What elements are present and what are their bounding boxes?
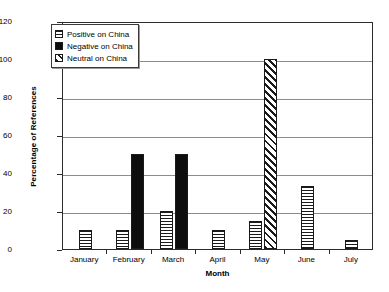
chart-legend: Positive on ChinaNegative on ChinaNeutra… [51, 24, 139, 68]
bar-group [330, 23, 374, 249]
legend-item-label: Positive on China [67, 30, 129, 39]
y-axis-tick-label: 20 [0, 208, 12, 216]
bar-group [241, 23, 285, 249]
bar [301, 186, 314, 249]
x-axis-tick-mark [284, 250, 285, 254]
x-axis-tick-mark [329, 250, 330, 254]
bar [212, 230, 225, 249]
y-axis-tick-label: 60 [0, 132, 12, 140]
legend-swatch-icon [55, 42, 63, 50]
y-axis-title: Percentage of References [29, 52, 38, 222]
y-axis-tick-label: 40 [0, 170, 12, 178]
bar-chart: Percentage of References 020406080100120… [0, 0, 389, 292]
legend-item: Positive on China [55, 28, 133, 40]
bar [131, 154, 144, 249]
legend-item: Neutral on China [55, 52, 133, 64]
bar [160, 211, 173, 249]
bar [345, 240, 358, 250]
legend-swatch-icon [55, 54, 63, 62]
bar [79, 230, 92, 249]
bar-group [285, 23, 329, 249]
x-axis-tick-mark [106, 250, 107, 254]
x-axis-tick-mark [195, 250, 196, 254]
y-axis-tick-label: 100 [0, 56, 12, 64]
legend-item: Negative on China [55, 40, 133, 52]
x-axis-tick-mark [240, 250, 241, 254]
y-axis-tick-label: 0 [0, 246, 12, 254]
legend-item-label: Neutral on China [67, 54, 127, 63]
bar [264, 59, 277, 249]
bar [116, 230, 129, 249]
y-axis-tick-label: 120 [0, 18, 12, 26]
y-axis-tick-mark [57, 250, 62, 251]
legend-swatch-icon [55, 30, 63, 38]
bar-group [152, 23, 196, 249]
x-axis-tick-label: July [316, 255, 386, 264]
bar [249, 221, 262, 250]
legend-item-label: Negative on China [67, 42, 133, 51]
bar [175, 154, 188, 249]
x-axis-tick-mark [151, 250, 152, 254]
y-axis-tick-label: 80 [0, 94, 12, 102]
x-axis-title: Month [62, 269, 373, 278]
bar-group [196, 23, 240, 249]
